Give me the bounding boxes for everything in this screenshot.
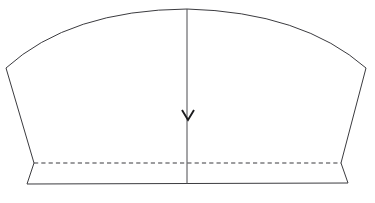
drawing-canvas [0, 0, 375, 203]
left-hem-flare-path [27, 163, 34, 184]
right-side-edge-path [341, 68, 366, 163]
top-curve-right-path [187, 9, 366, 68]
pattern-piece-drawing [0, 0, 375, 203]
top-curve-left-path [6, 9, 187, 68]
left-side-edge-path [6, 68, 34, 163]
right-hem-flare-path [341, 163, 348, 183]
grain-arrow-head-icon [182, 110, 194, 120]
